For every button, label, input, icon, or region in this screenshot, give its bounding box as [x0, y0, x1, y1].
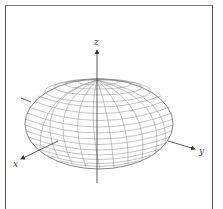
- ellipsoid-diagram: z x y: [0, 0, 223, 209]
- y-axis-back: [21, 98, 31, 102]
- y-axis: [168, 141, 195, 149]
- x-axis-label: x: [13, 159, 18, 169]
- y-axis-label: y: [198, 146, 205, 156]
- z-axis-label: z: [93, 37, 99, 47]
